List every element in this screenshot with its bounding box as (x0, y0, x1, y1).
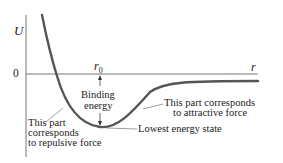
r0-label: r0 (94, 60, 103, 75)
attractive-leader-line (143, 104, 163, 109)
binding-energy-label-line2: energy (84, 101, 112, 111)
y-axis-label: U (14, 24, 23, 37)
binding-energy-arrow-down-head (98, 121, 102, 126)
potential-energy-diagram: U 0 r r0 Binding energy This part corres… (0, 0, 283, 163)
attractive-label-line2: to attractive force (173, 108, 247, 118)
zero-label: 0 (13, 68, 19, 80)
binding-energy-label-line1: Binding (81, 90, 115, 100)
binding-energy-arrow-up-head (98, 75, 102, 80)
repulsive-label-line3: to repulsive force (28, 138, 101, 148)
x-axis-label: r (251, 61, 256, 73)
lowest-state-leader-line (106, 128, 137, 129)
lowest-energy-label: Lowest energy state (138, 124, 222, 134)
r0-subscript: 0 (99, 66, 103, 75)
